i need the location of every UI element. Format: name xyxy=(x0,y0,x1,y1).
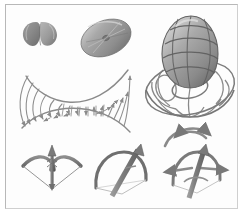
figure-tilted-disc xyxy=(75,12,136,64)
figure-two-lobed-solid xyxy=(23,22,57,46)
figure-flow-field xyxy=(20,70,130,132)
figure-bow-with-motion-arrows xyxy=(165,129,226,198)
figure-egg-in-torus xyxy=(141,16,240,123)
figure-illustration-canvas xyxy=(0,0,243,214)
figure-panel: twin lobe solid tilted disc egg in torus… xyxy=(0,0,243,214)
figure-bow-and-arrow-perspective xyxy=(96,144,146,196)
figure-bow-and-arrow-front xyxy=(23,145,81,191)
